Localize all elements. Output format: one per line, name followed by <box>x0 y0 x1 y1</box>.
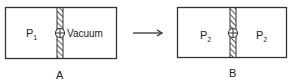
panel-b-right-label: P2 <box>256 30 267 45</box>
panel-b-left-label: P2 <box>200 30 211 45</box>
valve-icon <box>56 29 65 38</box>
right-arrow-icon <box>133 30 162 36</box>
panel-a-vacuum-label: Vacuum <box>67 28 103 39</box>
panel-a-left-label: P1 <box>26 28 37 43</box>
diagram-graphics <box>0 0 294 83</box>
valve-open-icon <box>229 29 238 38</box>
gas-expansion-diagram: P1 Vacuum A P2 P2 B <box>0 0 294 83</box>
panel-a-caption: A <box>56 70 63 81</box>
panel-b-caption: B <box>229 68 236 79</box>
panel-b-container <box>178 8 287 58</box>
